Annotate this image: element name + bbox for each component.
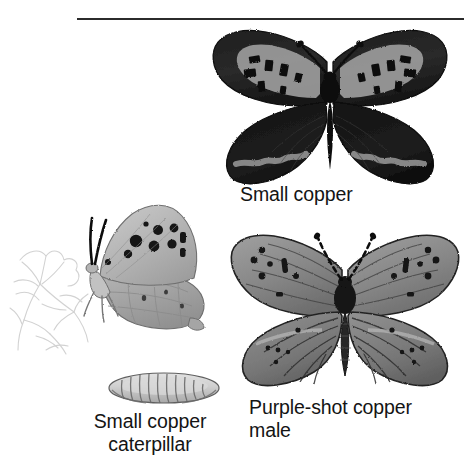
abdomen	[327, 100, 333, 170]
caption-small-copper-caterpillar: Small copper caterpillar	[55, 410, 245, 456]
figure-small-copper-adult	[196, 24, 464, 184]
ps-right-antenna-club	[369, 231, 377, 240]
figure-small-copper-underside	[62, 196, 218, 344]
ps-left-antenna-club	[313, 231, 321, 240]
caption-purple-shot-copper-male: Purple-shot copper male	[249, 396, 464, 442]
figure-small-copper-caterpillar	[104, 368, 224, 408]
illustration-plate: Small copper	[0, 0, 464, 463]
figure-purple-shot-copper-male	[226, 226, 464, 390]
caterpillar-dorsal-highlight	[120, 377, 208, 395]
ps-abdomen	[341, 312, 349, 376]
underside-forewing	[100, 205, 197, 285]
caption-small-copper: Small copper	[240, 183, 440, 206]
header-divider-rule	[77, 18, 464, 20]
hindwing-tail-lobe	[188, 318, 204, 330]
